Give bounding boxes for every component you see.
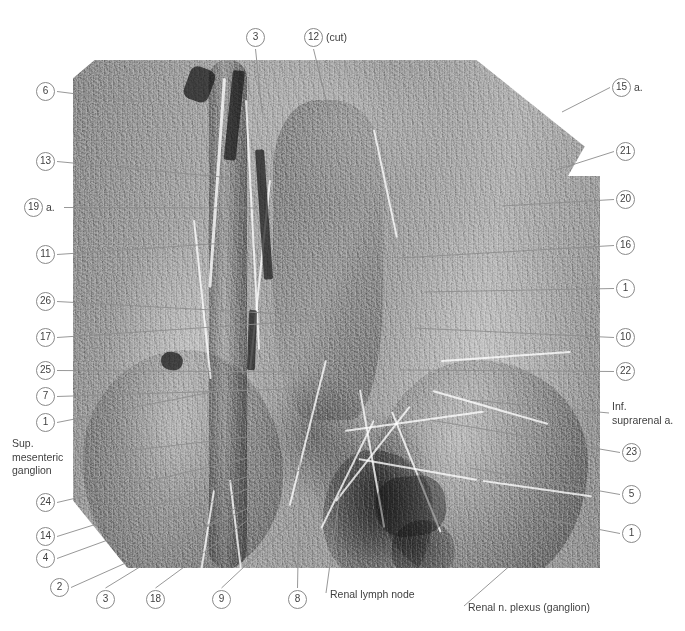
callout-label-1R: 1 xyxy=(616,279,635,298)
callout-text-line-0: Renal n. plexus (ganglion) xyxy=(468,601,590,614)
callout-text-line-0: Sup. xyxy=(12,437,63,451)
callout-number: 22 xyxy=(616,362,635,381)
callout-label-4: 4 xyxy=(36,549,55,568)
callout-number: 1 xyxy=(616,279,635,298)
callout-number: 9 xyxy=(212,590,231,609)
callout-text-line-1: suprarenal a. xyxy=(612,414,673,428)
callout-label-20: 20 xyxy=(616,190,635,209)
callout-label-10: 10 xyxy=(616,328,635,347)
callout-suffix: a. xyxy=(634,81,643,93)
callout-number: 13 xyxy=(36,152,55,171)
callout-number: 6 xyxy=(36,82,55,101)
callout-label-22: 22 xyxy=(616,362,635,381)
callout-label-14: 14 xyxy=(36,527,55,546)
callout-suffix: (cut) xyxy=(326,31,347,43)
callout-renal-n-plexus: Renal n. plexus (ganglion) xyxy=(468,601,590,614)
callout-suffix: a. xyxy=(46,201,55,213)
callout-label-11: 11 xyxy=(36,245,55,264)
callout-number: 18 xyxy=(146,590,165,609)
callout-number: 12 xyxy=(304,28,323,47)
callout-number: 16 xyxy=(616,236,635,255)
callout-number: 2 xyxy=(50,578,69,597)
anatomy-figure: 61319a.1126172571241442Sup.mesentericgan… xyxy=(0,0,685,631)
callout-label-1R2: 1 xyxy=(622,524,641,543)
dissection-photograph xyxy=(73,60,600,568)
callout-number: 21 xyxy=(616,142,635,161)
callout-text-line-0: Inf. xyxy=(612,400,673,414)
callout-number: 19 xyxy=(24,198,43,217)
callout-number: 15 xyxy=(612,78,631,97)
callout-renal-lymph-node: Renal lymph node xyxy=(330,588,415,601)
callout-label-16: 16 xyxy=(616,236,635,255)
callout-label-26: 26 xyxy=(36,292,55,311)
callout-text-line-2: ganglion xyxy=(12,464,63,478)
callout-label-17: 17 xyxy=(36,328,55,347)
callout-label-19: 19a. xyxy=(24,198,55,217)
callout-label-18: 18 xyxy=(146,590,165,609)
callout-number: 11 xyxy=(36,245,55,264)
callout-label-8: 8 xyxy=(288,590,307,609)
callout-number: 20 xyxy=(616,190,635,209)
callout-label-3T: 3 xyxy=(246,28,265,47)
callout-label-6: 6 xyxy=(36,82,55,101)
callout-sup-mesenteric-ganglion: Sup.mesentericganglion xyxy=(12,437,63,478)
callout-number: 14 xyxy=(36,527,55,546)
callout-number: 3 xyxy=(96,590,115,609)
callout-label-12: 12(cut) xyxy=(304,28,347,47)
callout-label-25: 25 xyxy=(36,361,55,380)
callout-text-line-0: Renal lymph node xyxy=(330,588,415,601)
callout-inf-suprarenal-a: Inf.suprarenal a. xyxy=(612,400,673,427)
callout-number: 10 xyxy=(616,328,635,347)
callout-number: 25 xyxy=(36,361,55,380)
callout-number: 3 xyxy=(246,28,265,47)
callout-label-21: 21 xyxy=(616,142,635,161)
callout-label-9: 9 xyxy=(212,590,231,609)
callout-label-1L: 1 xyxy=(36,413,55,432)
callout-label-23: 23 xyxy=(622,443,641,462)
callout-number: 8 xyxy=(288,590,307,609)
callout-text-line-1: mesenteric xyxy=(12,451,63,465)
callout-number: 17 xyxy=(36,328,55,347)
callout-number: 1 xyxy=(622,524,641,543)
callout-number: 23 xyxy=(622,443,641,462)
callout-label-24: 24 xyxy=(36,493,55,512)
callout-number: 7 xyxy=(36,387,55,406)
callout-label-3B: 3 xyxy=(96,590,115,609)
callout-number: 26 xyxy=(36,292,55,311)
callout-number: 5 xyxy=(622,485,641,504)
callout-label-5: 5 xyxy=(622,485,641,504)
callout-label-7: 7 xyxy=(36,387,55,406)
callout-number: 24 xyxy=(36,493,55,512)
callout-label-15: 15a. xyxy=(612,78,643,97)
callout-label-2: 2 xyxy=(50,578,69,597)
callout-label-13: 13 xyxy=(36,152,55,171)
callout-number: 4 xyxy=(36,549,55,568)
callout-number: 1 xyxy=(36,413,55,432)
